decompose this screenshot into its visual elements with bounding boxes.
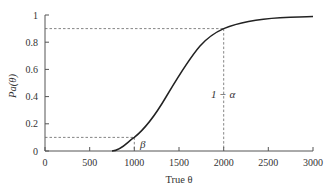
x-tick-label: 1000 bbox=[124, 157, 144, 168]
y-tick-labels: 0 0.2 0.4 0.6 0.8 1 bbox=[26, 10, 39, 157]
beta-annotation: β bbox=[139, 138, 146, 150]
x-tick-label: 500 bbox=[82, 157, 97, 168]
y-tick-label: 0.4 bbox=[26, 91, 39, 102]
one-minus-alpha-annotation: 1 − α bbox=[211, 88, 235, 100]
x-tick-labels: 0 500 1000 1500 2000 2500 3000 bbox=[43, 157, 324, 168]
x-tick-label: 1500 bbox=[169, 157, 189, 168]
y-tick-label: 0.8 bbox=[26, 37, 39, 48]
y-tick-label: 0.2 bbox=[26, 118, 39, 129]
y-tick-label: 1 bbox=[33, 10, 38, 21]
x-tick-label: 2000 bbox=[214, 157, 234, 168]
oc-curve-chart: 0 0.2 0.4 0.6 0.8 1 0 500 1000 1500 2000… bbox=[0, 0, 332, 189]
oc-curve bbox=[112, 17, 313, 152]
y-ticks bbox=[45, 15, 49, 151]
x-tick-label: 0 bbox=[43, 157, 48, 168]
y-tick-label: 0 bbox=[33, 146, 38, 157]
x-tick-label: 2500 bbox=[258, 157, 278, 168]
x-axis-label: True θ bbox=[165, 174, 192, 185]
x-ticks bbox=[45, 147, 313, 151]
y-tick-label: 0.6 bbox=[26, 64, 39, 75]
y-axis-label: Pa(θ) bbox=[7, 74, 19, 99]
guide-lines bbox=[45, 29, 224, 151]
x-tick-label: 3000 bbox=[303, 157, 323, 168]
